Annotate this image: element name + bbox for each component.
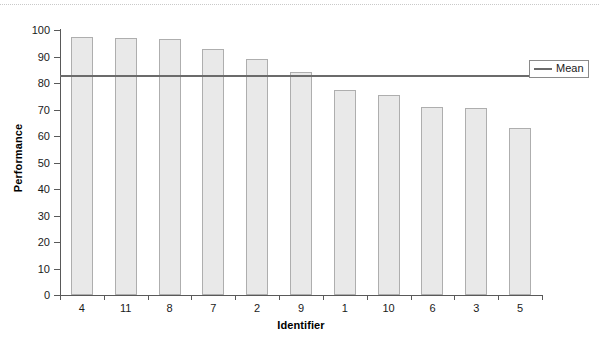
x-axis-tick-label: 3 — [456, 303, 496, 314]
bar — [334, 90, 356, 295]
y-axis-tick-label: 30 — [24, 211, 50, 222]
y-axis-tick — [54, 269, 60, 270]
bar — [421, 107, 443, 295]
x-axis-tick-label: 8 — [150, 303, 190, 314]
mean-reference-line — [60, 75, 536, 77]
x-axis-tick-label: 11 — [106, 303, 146, 314]
y-axis-tick-label: 70 — [24, 105, 50, 116]
y-axis-tick — [54, 189, 60, 190]
chart-page: 0102030405060708090100 4118729110635 Per… — [0, 0, 599, 349]
legend-item-label-mean: Mean — [556, 63, 584, 74]
x-axis-tick-label: 2 — [237, 303, 277, 314]
y-axis-title: Performance — [12, 103, 24, 213]
y-axis-tick — [54, 163, 60, 164]
x-axis-tick — [235, 295, 236, 300]
y-axis-tick — [54, 216, 60, 217]
y-axis-tick — [54, 110, 60, 111]
x-axis-line — [60, 295, 542, 296]
x-axis-tick — [279, 295, 280, 300]
bar-chart: 0102030405060708090100 4118729110635 Per… — [0, 0, 599, 349]
y-axis-tick — [54, 242, 60, 243]
y-axis-tick-label: 10 — [24, 264, 50, 275]
x-axis-tick — [191, 295, 192, 300]
y-axis-line — [60, 29, 61, 296]
bar — [290, 72, 312, 295]
x-axis-tick-label: 10 — [369, 303, 409, 314]
x-axis-tick-label: 5 — [500, 303, 540, 314]
y-axis-tick-label: 100 — [24, 25, 50, 36]
bar — [202, 49, 224, 295]
x-axis-title: Identifier — [60, 319, 542, 331]
x-axis-tick — [148, 295, 149, 300]
bar — [246, 59, 268, 295]
x-axis-tick — [104, 295, 105, 300]
x-axis-tick-label: 6 — [412, 303, 452, 314]
y-axis-tick — [54, 57, 60, 58]
bar — [509, 128, 531, 295]
y-axis-tick — [54, 83, 60, 84]
mean-line-swatch-icon — [534, 68, 552, 70]
x-axis-tick — [367, 295, 368, 300]
x-axis-tick-label: 1 — [325, 303, 365, 314]
y-axis-tick — [54, 136, 60, 137]
x-axis-tick — [542, 295, 543, 300]
chart-legend: Mean — [529, 60, 589, 78]
y-axis-tick — [54, 30, 60, 31]
bar — [378, 95, 400, 295]
y-axis-tick-label: 90 — [24, 52, 50, 63]
y-axis-tick-label: 0 — [24, 290, 50, 301]
y-axis-tick-label: 50 — [24, 158, 50, 169]
x-axis-tick — [411, 295, 412, 300]
x-axis-tick-label: 7 — [193, 303, 233, 314]
x-axis-tick-label: 9 — [281, 303, 321, 314]
y-axis-tick-label: 20 — [24, 237, 50, 248]
y-axis-tick-label: 80 — [24, 78, 50, 89]
x-axis-tick — [60, 295, 61, 300]
y-axis-tick-label: 60 — [24, 131, 50, 142]
x-axis-tick — [454, 295, 455, 300]
x-axis-tick-label: 4 — [62, 303, 102, 314]
bar — [159, 39, 181, 295]
x-axis-tick — [323, 295, 324, 300]
bar — [465, 108, 487, 295]
x-axis-tick — [498, 295, 499, 300]
y-axis-tick-label: 40 — [24, 184, 50, 195]
